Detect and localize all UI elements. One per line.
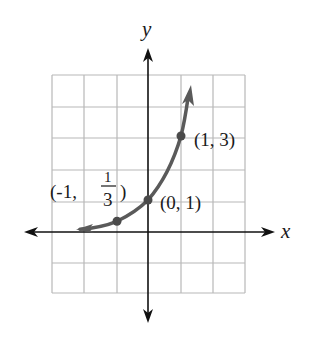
- point-0-1: [144, 196, 153, 205]
- point-label-neg1-third: (-1, 1 3 ): [50, 169, 126, 210]
- exponential-graph: y x (1, 3) (0, 1) (-1, 1 3 ): [0, 0, 311, 339]
- y-axis-label: y: [140, 17, 152, 41]
- fraction-numerator: 1: [104, 169, 112, 185]
- y-axis: [143, 48, 153, 323]
- point-label-0-1: (0, 1): [160, 192, 201, 214]
- x-axis: [24, 227, 275, 237]
- fraction-denominator: 3: [103, 189, 113, 210]
- point-label-neg1-open: (-1,: [50, 181, 77, 203]
- point-label-neg1-close: ): [120, 181, 126, 203]
- x-axis-label: x: [280, 219, 291, 243]
- point-label-1-3: (1, 3): [194, 129, 235, 151]
- point-neg1-third: [113, 217, 122, 226]
- point-1-3: [177, 132, 186, 141]
